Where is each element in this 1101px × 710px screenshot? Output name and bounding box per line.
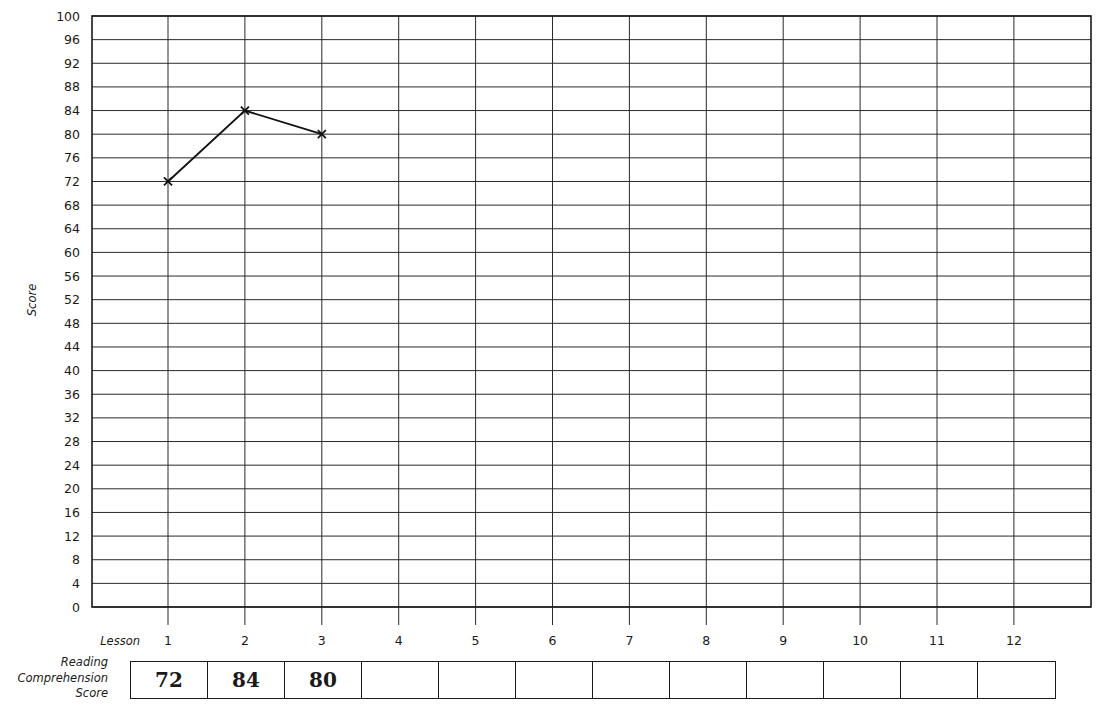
x-tick-label: 12 — [1006, 633, 1022, 648]
x-tick-label: 11 — [929, 633, 945, 648]
x-tick-label: 4 — [395, 633, 403, 648]
y-tick-label: 88 — [64, 79, 80, 94]
horizontal-gridlines — [92, 16, 1091, 607]
y-tick-label: 72 — [64, 174, 80, 189]
score-line-chart: 0481216202428323640444852566064687276808… — [0, 0, 1101, 660]
x-tick-label: 3 — [318, 633, 326, 648]
y-tick-label: 12 — [64, 529, 80, 544]
score-cell-lesson-7 — [593, 662, 670, 698]
score-cell-lesson-8 — [670, 662, 747, 698]
y-tick-label: 36 — [64, 387, 80, 402]
y-tick-label: 8 — [72, 552, 80, 567]
y-tick-label: 40 — [64, 363, 80, 378]
score-cell-lesson-9 — [747, 662, 824, 698]
score-table-label: Reading Comprehension Score — [0, 655, 108, 702]
y-tick-label: 52 — [64, 292, 80, 307]
score-cell-lesson-6 — [516, 662, 593, 698]
y-tick-label: 80 — [64, 127, 80, 142]
y-tick-label: 20 — [64, 481, 80, 496]
y-tick-label: 92 — [64, 56, 80, 71]
y-tick-label: 0 — [72, 600, 80, 615]
y-tick-label: 56 — [64, 269, 80, 284]
x-tick-label: 6 — [549, 633, 557, 648]
y-tick-label: 84 — [64, 103, 80, 118]
y-tick-label: 44 — [64, 339, 80, 354]
score-cell-lesson-12 — [978, 662, 1055, 698]
y-tick-label: 60 — [64, 245, 80, 260]
y-tick-label: 100 — [56, 9, 80, 24]
x-tick-label: 1 — [164, 633, 172, 648]
y-tick-label: 48 — [64, 316, 80, 331]
table-label-line: Comprehension — [0, 671, 108, 687]
x-tick-labels: 123456789101112 — [164, 633, 1022, 648]
score-cell-lesson-3: 80 — [285, 662, 362, 698]
x-axis-label: Lesson — [100, 634, 140, 648]
x-tick-label: 2 — [241, 633, 249, 648]
y-tick-label: 68 — [64, 198, 80, 213]
score-table: 728480 — [130, 661, 1056, 699]
y-tick-label: 32 — [64, 410, 80, 425]
y-tick-label: 16 — [64, 505, 80, 520]
vertical-gridlines — [168, 16, 1014, 625]
table-label-line: Score — [0, 686, 108, 702]
x-tick-label: 10 — [852, 633, 868, 648]
table-label-line: Reading — [0, 655, 108, 671]
y-tick-label: 28 — [64, 434, 80, 449]
plot-frame — [92, 16, 1091, 607]
x-tick-label: 5 — [472, 633, 480, 648]
score-cell-lesson-11 — [901, 662, 978, 698]
score-cell-lesson-2: 84 — [208, 662, 285, 698]
score-cell-lesson-10 — [824, 662, 901, 698]
score-cell-lesson-1: 72 — [131, 662, 208, 698]
score-cell-lesson-4 — [362, 662, 439, 698]
y-tick-label: 64 — [64, 221, 80, 236]
x-tick-label: 9 — [779, 633, 787, 648]
score-cell-lesson-5 — [439, 662, 516, 698]
x-tick-label: 8 — [702, 633, 710, 648]
y-tick-label: 76 — [64, 150, 80, 165]
y-axis-label: Score — [25, 284, 39, 316]
x-tick-label: 7 — [625, 633, 633, 648]
y-tick-label: 4 — [72, 576, 80, 591]
y-tick-label: 96 — [64, 32, 80, 47]
y-tick-labels: 0481216202428323640444852566064687276808… — [56, 9, 80, 615]
y-tick-label: 24 — [64, 458, 80, 473]
